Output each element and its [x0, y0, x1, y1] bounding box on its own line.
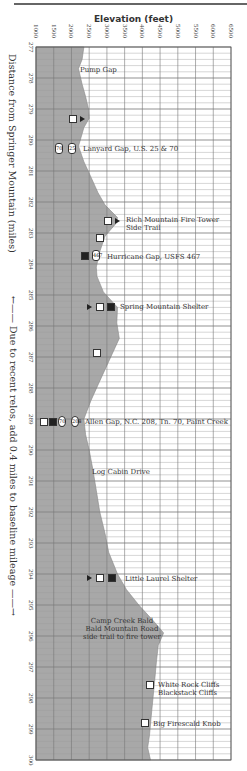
viewpoint-icon — [141, 719, 149, 727]
shelter-icon — [107, 303, 115, 311]
label-pump-gap: Pump Gap — [80, 66, 117, 74]
label-rich-mountain-side-trail: Side Trail — [126, 224, 161, 232]
label-blackstack-cliffs: Blackstack Cliffs — [158, 689, 217, 697]
route-70-shield-icon: 70 — [55, 143, 63, 154]
label-bald-mountain-road: Bald Mountain Road — [80, 625, 164, 633]
campsite-icon — [115, 218, 120, 224]
label-big-firescald-knob: Big Firescald Knob — [153, 720, 221, 728]
nc-208-shield-icon: 208 — [71, 416, 79, 427]
viewpoint-icon — [96, 234, 104, 242]
viewpoint-icon — [96, 303, 104, 311]
label-lanyard-gap: Lanyard Gap, U.S. 25 & 70 — [83, 145, 178, 153]
parking-icon — [49, 418, 57, 426]
campsite-icon — [87, 575, 92, 581]
viewpoint-icon — [104, 217, 112, 225]
shelter-icon — [108, 574, 116, 582]
viewpoint-icon — [69, 115, 77, 123]
campsite-icon — [80, 116, 85, 122]
label-allen-gap: Allen Gap, N.C. 208, Tn. 70, Paint Creek — [85, 418, 228, 426]
label-white-rock-cliffs: White Rock Cliffs — [158, 681, 219, 689]
label-hurricane-gap: Hurricane Gap, USFS 467 — [107, 253, 200, 261]
viewpoint-icon — [96, 574, 104, 582]
label-camp-creek-bald: Camp Creek Bald — [80, 617, 164, 625]
campsite-icon — [87, 304, 92, 310]
route-25-shield-icon: 25 — [68, 143, 76, 154]
label-little-laurel-shelter: Little Laurel Shelter — [125, 575, 197, 583]
label-log-cabin-drive: Log Cabin Drive — [92, 468, 150, 476]
elevation-profile-chart — [0, 0, 247, 771]
label-side-trail-fire-tower: side trail to fire tower — [80, 633, 164, 641]
forest-road-467-icon: 467 — [92, 250, 100, 261]
viewpoint-icon — [93, 349, 101, 357]
tn-70-shield-icon: 70 — [58, 416, 66, 427]
label-rich-mountain: Rich Mountain Fire Tower — [126, 216, 219, 224]
viewpoint-icon — [146, 681, 154, 689]
viewpoint-icon — [40, 418, 48, 426]
parking-icon — [81, 252, 89, 260]
label-spring-mountain-shelter: Spring Mountain Shelter — [120, 303, 208, 311]
